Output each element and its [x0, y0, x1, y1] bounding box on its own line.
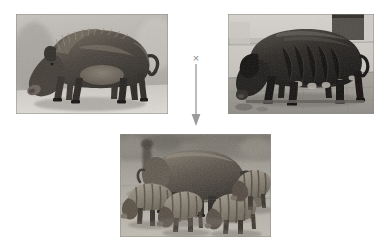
down-arrow-icon	[188, 64, 204, 127]
offspring-photo	[120, 134, 271, 237]
parent-left-photo	[16, 14, 168, 114]
crossbreeding-figure: ×	[0, 0, 389, 251]
parent-right-photo	[228, 14, 374, 114]
figure-caption	[0, 0, 1, 1]
